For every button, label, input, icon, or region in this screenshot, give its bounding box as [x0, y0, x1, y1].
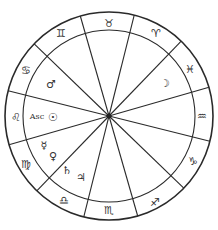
cancer-sign-icon: ♋︎ [21, 65, 31, 76]
pisces-sign-icon: ♓︎ [185, 64, 195, 75]
scorpio-sign-icon: ♏︎ [104, 205, 114, 216]
moon-planet-icon: ☽︎ [160, 78, 170, 89]
mercury-planet-icon: ☿︎ [41, 140, 48, 151]
jupiter-planet-icon: ♃︎ [76, 172, 86, 183]
leo-sign-icon: ♌︎ [11, 112, 21, 123]
sagittarius-sign-icon: ♐︎ [150, 197, 160, 208]
venus-planet-icon: ♀︎ [49, 151, 57, 162]
aries-sign-icon: ♈︎ [151, 28, 161, 39]
capricorn-sign-icon: ♑︎ [188, 156, 198, 167]
mars-planet-icon: ♂︎ [46, 79, 56, 90]
aquarius-sign-icon: ♒︎ [197, 111, 207, 122]
sun-planet-icon: ☉︎ [48, 112, 58, 123]
saturn-planet-icon: ♄︎ [62, 165, 72, 176]
house-divider-line [109, 41, 181, 116]
chart-center-hub [107, 114, 112, 119]
libra-sign-icon: ♎︎ [59, 195, 69, 206]
taurus-sign-icon: ♉︎ [104, 18, 114, 29]
gemini-sign-icon: ♊︎ [56, 28, 66, 39]
virgo-sign-icon: ♍︎ [21, 159, 31, 170]
ascendant-label: Asc [30, 113, 44, 121]
house-divider-line [37, 116, 109, 191]
house-divider-line [109, 116, 184, 188]
